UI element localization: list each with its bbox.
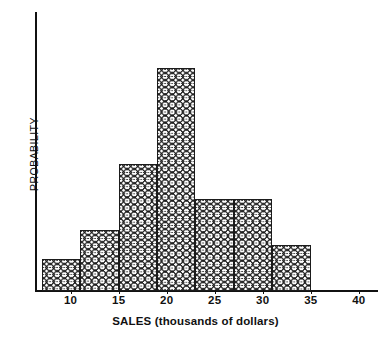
x-axis-tick-label: 35 <box>291 294 331 306</box>
bar <box>234 199 272 291</box>
x-axis-tick-label: 20 <box>147 294 187 306</box>
bar <box>80 230 118 291</box>
x-axis-tick-label: 40 <box>339 294 379 306</box>
histogram-figure: PROBABILITY SALES (thousands of dollars)… <box>0 0 391 347</box>
bar <box>157 68 195 291</box>
x-axis-tick-label: 30 <box>243 294 283 306</box>
x-axis-tick-label: 10 <box>51 294 91 306</box>
bar <box>119 164 157 291</box>
plot-area <box>37 12 378 291</box>
bar <box>42 259 80 291</box>
x-axis-tick-label: 15 <box>99 294 139 306</box>
bar <box>272 245 310 291</box>
x-axis-tick-label: 25 <box>195 294 235 306</box>
bar <box>195 199 233 291</box>
x-axis-title: SALES (thousands of dollars) <box>0 315 391 327</box>
